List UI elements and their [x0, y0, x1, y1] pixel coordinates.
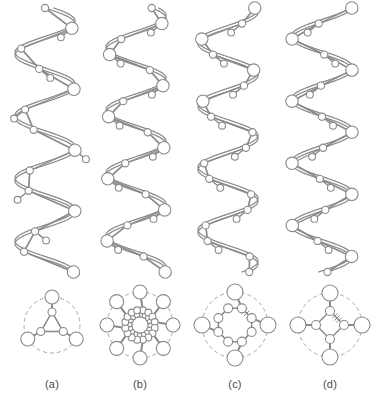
helix-minor-node [316, 175, 323, 182]
side-group-node [116, 122, 123, 129]
side-group-node [150, 215, 157, 222]
side-group-node [115, 247, 122, 254]
helix-minor-node [322, 206, 329, 213]
helix-bond [30, 150, 75, 170]
helix-major-node [286, 33, 298, 45]
helix-minor-node [31, 228, 38, 235]
helix-minor-node [321, 51, 328, 58]
outer-major-node [110, 341, 124, 355]
helix-major-node [102, 173, 114, 185]
side-group-node [217, 184, 224, 191]
inner-ring-node [214, 327, 223, 336]
outer-major-node [156, 341, 170, 355]
helix-minor-node [22, 106, 29, 113]
helix-panel-d [286, 2, 358, 276]
side-group-node [330, 122, 337, 129]
side-group-node [311, 215, 318, 222]
helix-minor-node [207, 113, 214, 120]
helix-major-node [286, 157, 298, 169]
side-group-node [14, 196, 21, 203]
helix-minor-node [249, 129, 256, 136]
outer-major-node [166, 318, 180, 332]
side-group-node [147, 29, 154, 36]
inner-ring-node [237, 304, 246, 313]
side-group-node [219, 122, 226, 129]
helix-minor-node [202, 222, 209, 229]
helix-minor-node [314, 237, 321, 244]
helix-bond [24, 252, 73, 272]
outer-major-node [260, 317, 276, 333]
helix-major-node [66, 22, 78, 34]
side-group-node [149, 153, 156, 160]
outer-major-node [322, 285, 338, 301]
inner-ring-node [326, 307, 335, 316]
helix-major-node [158, 204, 170, 216]
outer-major-node [45, 290, 59, 304]
side-group-node [233, 215, 240, 222]
outer-major-node [110, 295, 124, 309]
side-group-node [221, 60, 228, 67]
helix-minor-node [26, 167, 33, 174]
helix-minor-node [30, 126, 37, 133]
side-group-node [230, 91, 237, 98]
helix-minor-node [25, 187, 32, 194]
helix-major-node [69, 205, 81, 217]
helix-major-node [156, 17, 168, 29]
side-group-node [43, 237, 50, 244]
helix-minor-node [244, 206, 251, 213]
helix-major-node [197, 95, 209, 107]
helix-minor-node [148, 4, 155, 11]
outer-major-node [322, 349, 338, 365]
outer-major-node [156, 295, 170, 309]
outer-major-node [69, 332, 83, 346]
inner-ring-node [214, 314, 223, 323]
helix-panel-c [196, 2, 261, 276]
side-group-node [327, 184, 334, 191]
inner-ring-node [134, 307, 141, 314]
helix-minor-node [41, 4, 48, 11]
panel-label-b: (b) [120, 378, 160, 390]
cross-section-views [21, 284, 370, 366]
outer-major-node [227, 350, 243, 366]
helix-major-node [69, 144, 81, 156]
helix-major-node [247, 64, 259, 76]
outer-major-node [133, 351, 147, 365]
helix-minor-node [238, 20, 245, 27]
helix-major-node [103, 48, 115, 60]
helix-minor-node [146, 67, 153, 74]
outer-major-node [100, 318, 114, 332]
side-group-node [325, 247, 332, 254]
side-group-node [304, 29, 311, 36]
helix-major-node [101, 235, 113, 247]
helix-minor-node [18, 45, 25, 52]
helix-backbone-strand-1 [292, 8, 352, 272]
inner-ring-node [340, 321, 349, 330]
helix-minor-node [240, 82, 247, 89]
helix-minor-node [324, 268, 331, 275]
outer-major-node [194, 317, 210, 333]
inner-ring-node [224, 337, 233, 346]
helix-minor-node [36, 65, 43, 72]
helix-side-views [11, 2, 358, 278]
side-group-node [309, 153, 316, 160]
helix-minor-node [140, 253, 147, 260]
side-group-node [83, 156, 90, 163]
helix-minor-node [246, 253, 253, 260]
helix-major-node [346, 188, 358, 200]
helix-bond [29, 191, 75, 211]
helix-minor-node [317, 82, 324, 89]
outer-major-node [290, 317, 306, 333]
helix-minor-node [118, 35, 125, 42]
helix-major-node [286, 219, 298, 231]
helix-bond [204, 148, 246, 164]
helix-bond [206, 210, 248, 226]
inner-ring-node [37, 328, 45, 336]
helix-figure [0, 0, 380, 406]
inner-ring-node [48, 308, 56, 316]
inner-ring-node [59, 328, 67, 336]
helix-bond [25, 89, 74, 109]
side-group-node [228, 29, 235, 36]
helix-bond [208, 241, 250, 257]
helix-major-node [196, 33, 208, 45]
inner-ring-node [237, 337, 246, 346]
